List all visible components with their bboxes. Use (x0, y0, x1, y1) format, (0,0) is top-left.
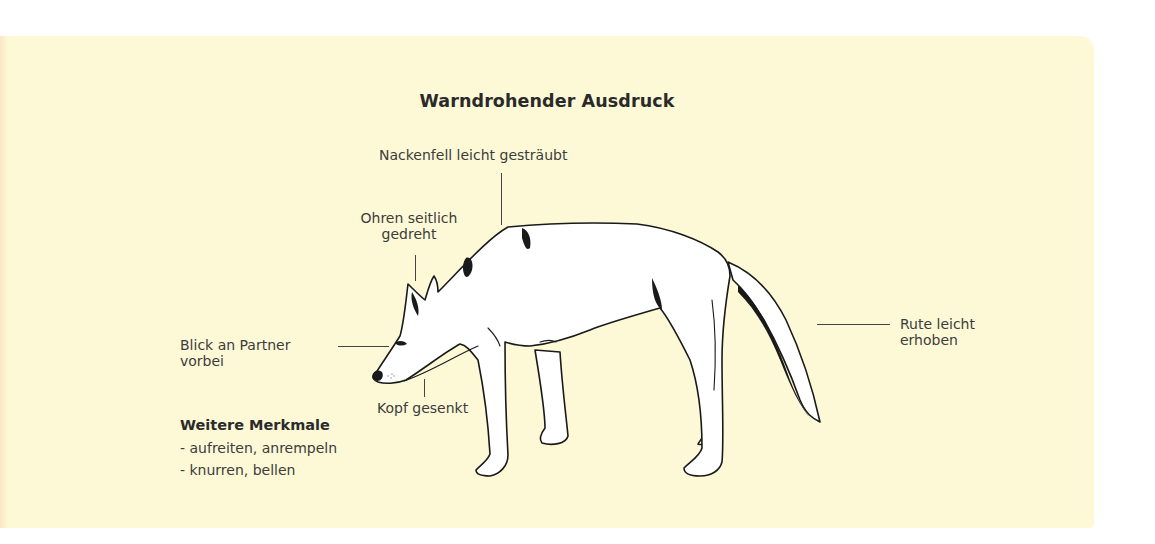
further-features-list: - aufreiten, anrempeln - knurren, bellen (180, 437, 337, 481)
label-blick: Blick an Partner vorbei (180, 337, 290, 369)
further-feature-item: - knurren, bellen (180, 459, 337, 481)
label-kopf: Kopf gesenkt (377, 400, 468, 416)
leader-blick (338, 346, 389, 347)
further-features-heading: Weitere Merkmale (180, 417, 330, 433)
label-blick-line2: vorbei (180, 353, 290, 369)
leader-rute (817, 324, 890, 325)
further-feature-item: - aufreiten, anrempeln (180, 437, 337, 459)
label-rute: Rute leicht erhoben (900, 316, 975, 348)
label-blick-line1: Blick an Partner (180, 337, 290, 353)
label-rute-line1: Rute leicht (900, 316, 975, 332)
label-ohren-line1: Ohren seitlich (347, 210, 471, 226)
leader-nackenfell (501, 173, 502, 225)
label-rute-line2: erhoben (900, 332, 975, 348)
dog-illustration (0, 0, 1155, 544)
label-nackenfell: Nackenfell leicht gesträubt (379, 147, 567, 163)
label-ohren-line2: gedreht (347, 226, 471, 242)
dog-front-leg-far (535, 350, 568, 444)
label-ohren: Ohren seitlich gedreht (347, 210, 471, 242)
leader-ohren (415, 255, 416, 281)
leader-kopf (424, 379, 425, 397)
